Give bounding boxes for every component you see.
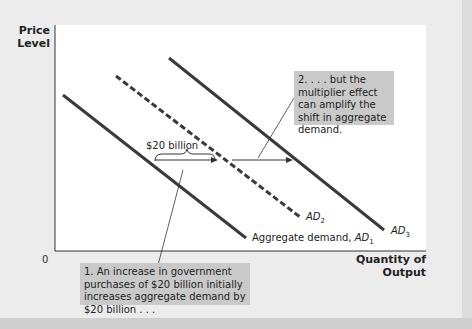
callout-initial-increase: 1. An increase in government purchases o… — [80, 263, 250, 305]
y-axis-label: Price Level — [8, 24, 50, 50]
ad2-label-letters: AD — [306, 211, 321, 222]
ad2-label-sub: 2 — [321, 217, 325, 225]
x-axis-label: Quantity of Output — [340, 253, 426, 279]
y-axis-label-line2: Level — [8, 37, 50, 50]
ad2-label: AD2 — [306, 211, 325, 225]
twenty-billion-label: $20 billion — [146, 140, 198, 151]
ad1-curve — [63, 95, 246, 238]
callout-multiplier-effect: 2. . . . but the multiplier effect can a… — [294, 71, 394, 125]
ad1-label-letters: AD — [355, 232, 370, 243]
origin-label: 0 — [42, 254, 48, 265]
ad1-label-prefix: Aggregate demand, — [252, 232, 355, 243]
y-axis-label-line1: Price — [8, 24, 50, 37]
x-axis-label-line2: Output — [340, 266, 426, 279]
ad3-label: AD3 — [391, 225, 410, 239]
ad1-label-sub: 1 — [369, 238, 373, 246]
ad2-curve — [116, 76, 300, 217]
ad3-label-letters: AD — [391, 225, 406, 236]
callout2-leader — [258, 98, 294, 158]
ad1-label: Aggregate demand, AD1 — [252, 232, 374, 246]
x-axis-label-line1: Quantity of — [340, 253, 426, 266]
ad3-label-sub: 3 — [406, 231, 410, 239]
